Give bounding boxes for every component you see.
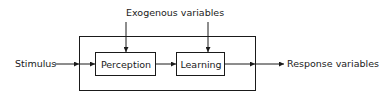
stimulus-label: Stimulus	[15, 59, 56, 69]
perception-label: Perception	[96, 53, 156, 76]
exogenous-variables-label: Exogenous variables	[126, 8, 224, 18]
learning-label: Learning	[177, 53, 225, 76]
response-variables-label: Response variables	[287, 59, 379, 69]
